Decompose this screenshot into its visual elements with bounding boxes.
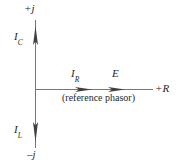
imaginary-axis-positive-label: +j: [24, 3, 34, 14]
phasor-ic-subscript: C: [18, 38, 23, 47]
imaginary-axis-negative-label: –j: [27, 149, 36, 160]
real-axis-positive-label: +R: [155, 83, 169, 94]
phasor-label-ir: IR: [71, 68, 79, 82]
phasor-ir-subscript: R: [75, 75, 80, 84]
phasor-il-subscript: L: [18, 131, 22, 140]
phasor-label-e: E: [112, 68, 119, 79]
phasor-diagram-figure: +j –j +R IC IL IR E (reference phasor): [0, 0, 180, 165]
phasor-e-symbol: E: [112, 67, 119, 79]
axes-and-phasors: [0, 0, 180, 165]
reference-phasor-caption: (reference phasor): [62, 93, 135, 103]
phasor-label-ic: IC: [14, 31, 23, 45]
phasor-label-il: IL: [14, 124, 22, 138]
